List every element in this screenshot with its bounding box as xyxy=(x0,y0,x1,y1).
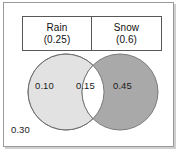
set-label-box-rain: Rain (0.25) xyxy=(22,16,92,51)
venn-diagram-figure: Rain (0.25) Snow (0.6) 0.10 0.15 0.45 0.… xyxy=(0,0,180,153)
rain-set-probability: (0.25) xyxy=(44,34,71,45)
set-label-boxes: Rain (0.25) Snow (0.6) xyxy=(22,16,162,51)
region-value-intersection: 0.15 xyxy=(76,80,95,91)
rain-set-name: Rain xyxy=(47,22,68,33)
snow-set-name: Snow xyxy=(114,22,139,33)
set-label-box-snow: Snow (0.6) xyxy=(92,16,162,51)
region-value-snow-only: 0.45 xyxy=(113,80,132,91)
snow-set-probability: (0.6) xyxy=(116,34,137,45)
region-value-rain-only: 0.10 xyxy=(35,80,54,91)
region-value-neither: 0.30 xyxy=(11,124,30,135)
